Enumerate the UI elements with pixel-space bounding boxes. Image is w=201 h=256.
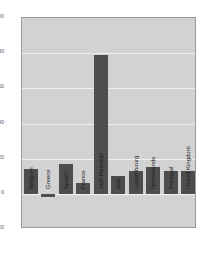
y-tick-label: 80 <box>0 49 4 55</box>
category-label: United Kingdom <box>185 146 191 189</box>
y-tick-label: 40 <box>0 120 4 126</box>
bar-slot: United Kingdom <box>180 18 197 227</box>
bars-group: BelgiumGreeceSpain*FranceIrish RepublicI… <box>22 18 195 227</box>
category-label: Spain* <box>63 171 69 189</box>
bar-slot: Portugal <box>162 18 180 227</box>
bar-slot: Spain* <box>57 18 75 227</box>
bar-slot: Netherlands <box>145 18 163 227</box>
y-tick-label: 0 <box>1 190 4 196</box>
category-label: Italy <box>115 178 121 189</box>
y-tick-label: 20 <box>0 155 4 161</box>
bar-slot: France <box>75 18 93 227</box>
y-tick-label: 100 <box>0 14 4 20</box>
y-tick-label: 60 <box>0 84 4 90</box>
plot-area: BelgiumGreeceSpain*FranceIrish RepublicI… <box>21 17 196 228</box>
bar-slot: Italy <box>110 18 128 227</box>
bar-chart: 100806040200-20 BelgiumGreeceSpain*Franc… <box>0 0 201 256</box>
bar-slot: Irish Republic <box>92 18 110 227</box>
category-label: Irish Republic <box>98 152 104 188</box>
category-label: Netherlands <box>150 156 156 188</box>
bar-slot: Belgium <box>22 18 40 227</box>
category-label: Greece <box>45 169 51 189</box>
category-label: Portugal <box>168 166 174 188</box>
category-label: France <box>80 170 86 189</box>
y-tick-label: -20 <box>0 225 4 231</box>
bar-slot: Greece <box>40 18 58 227</box>
bar[interactable] <box>41 194 55 198</box>
category-label: Belgium <box>28 167 34 189</box>
bar-slot: Luxembourg <box>127 18 145 227</box>
category-label: Luxembourg <box>133 155 139 188</box>
